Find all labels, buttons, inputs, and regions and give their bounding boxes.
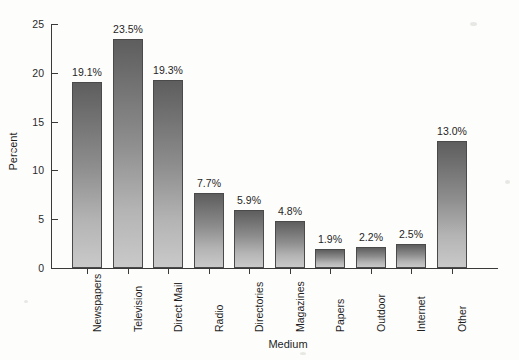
bar-value-label: 19.1% [62, 67, 112, 78]
bar-value-label: 19.3% [143, 65, 193, 76]
bar-value-label: 5.9% [224, 195, 274, 206]
bar-papers[interactable] [315, 249, 345, 268]
x-category-label-directories: Directories [254, 282, 265, 332]
scan-speckle [505, 180, 510, 184]
x-category-label-direct-mail: Direct Mail [173, 282, 184, 332]
bar-magazines[interactable] [275, 221, 305, 268]
y-tick-label: 15 [16, 117, 44, 127]
bar-outdoor[interactable] [356, 247, 386, 268]
x-tick [87, 269, 88, 274]
x-axis-title: Medium [233, 339, 343, 350]
y-tick-25 [52, 24, 58, 25]
y-tick-10 [52, 170, 58, 171]
y-tick-20 [52, 73, 58, 74]
scan-speckle [300, 352, 306, 355]
x-tick [452, 269, 453, 274]
y-tick-label: 25 [16, 19, 44, 29]
x-tick [411, 269, 412, 274]
x-category-label-radio: Radio [214, 305, 225, 332]
bar-television[interactable] [113, 39, 143, 268]
x-tick [290, 269, 291, 274]
bar-radio[interactable] [194, 193, 224, 268]
bar-value-label: 23.5% [103, 24, 153, 35]
x-category-label-outdoor: Outdoor [376, 294, 387, 332]
bar-value-label: 4.8% [265, 206, 315, 217]
bar-direct-mail[interactable] [153, 80, 183, 268]
x-tick [371, 269, 372, 274]
x-category-label-papers: Papers [335, 299, 346, 332]
x-axis-line [51, 268, 498, 269]
x-category-label-other: Other [457, 306, 468, 332]
bar-internet[interactable] [396, 244, 426, 268]
bar-newspapers[interactable] [72, 82, 102, 268]
x-category-label-internet: Internet [416, 296, 427, 332]
scan-speckle [24, 300, 28, 303]
y-tick-label: 10 [16, 165, 44, 175]
bar-chart-plot: 0510152025 19.1%Newspapers23.5%Televisio… [0, 0, 519, 360]
bar-value-label: 2.5% [386, 229, 436, 240]
y-tick-15 [52, 122, 58, 123]
x-tick [168, 269, 169, 274]
scan-speckle [470, 22, 477, 26]
y-tick-5 [52, 219, 58, 220]
x-category-label-newspapers: Newspapers [92, 274, 103, 332]
bar-other[interactable] [437, 141, 467, 268]
y-tick-label: 20 [16, 68, 44, 78]
x-tick [249, 269, 250, 274]
bar-value-label: 7.7% [184, 178, 234, 189]
x-tick [209, 269, 210, 274]
chart-page: 0510152025 19.1%Newspapers23.5%Televisio… [0, 0, 519, 360]
y-tick-label: 5 [16, 214, 44, 224]
x-tick [330, 269, 331, 274]
y-axis-line [51, 24, 52, 269]
x-tick [128, 269, 129, 274]
bar-value-label: 13.0% [427, 126, 477, 137]
x-category-label-magazines: Magazines [295, 281, 306, 332]
y-tick-label: 0 [16, 263, 44, 273]
x-category-label-television: Television [133, 286, 144, 332]
y-tick-0 [52, 268, 58, 269]
y-axis-title: Percent [8, 112, 19, 192]
bar-directories[interactable] [234, 210, 264, 268]
